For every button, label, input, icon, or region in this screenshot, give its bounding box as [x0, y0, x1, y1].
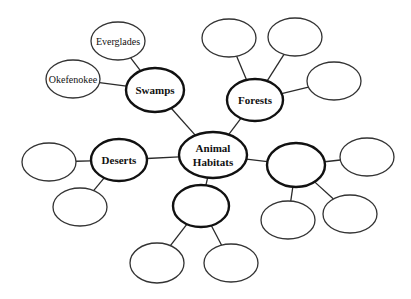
detail-node-blank-bottom-0 [130, 243, 184, 283]
edge-forests-child-0 [237, 56, 247, 80]
detail-node-forests-0-ellipse [202, 19, 256, 57]
detail-node-blank-bottom-1 [204, 244, 258, 282]
edge-blank-bottom-child-1 [211, 226, 221, 246]
category-node-blank-bottom-ellipse [173, 185, 229, 227]
edge-swamps-child-1 [100, 83, 127, 87]
category-label: Forests [238, 94, 273, 106]
detail-node-forests-0 [202, 19, 256, 57]
category-label: Swamps [135, 84, 175, 96]
category-node-blank-right-ellipse [267, 143, 325, 187]
detail-node-blank-bottom-1-ellipse [204, 244, 258, 282]
detail-node-swamps-1: Okefenokee [46, 60, 100, 98]
detail-node-forests-1-ellipse [268, 18, 322, 56]
edge-swamps-child-0 [131, 58, 141, 71]
edge-center-forests [229, 118, 241, 134]
edge-center-deserts [147, 157, 179, 159]
center-label-line: Habitats [193, 156, 234, 168]
edge-forests-child-2 [282, 87, 309, 93]
detail-node-blank-right-1-ellipse [261, 201, 315, 239]
center-label-line: Animal [196, 142, 231, 154]
detail-label: Everglades [96, 36, 140, 47]
edge-blank-right-child-1 [291, 187, 293, 201]
category-node-forests: Forests [227, 79, 283, 121]
diagram-canvas: AnimalHabitatsSwampsEvergladesOkefenokee… [0, 0, 411, 299]
detail-node-deserts-1 [53, 188, 107, 226]
center-node-ellipse [179, 132, 247, 178]
animal-habitats-web-diagram: AnimalHabitatsSwampsEvergladesOkefenokee… [0, 0, 411, 299]
category-label: Deserts [102, 154, 138, 166]
category-node-blank-bottom [173, 185, 229, 227]
detail-node-forests-1 [268, 18, 322, 56]
category-node-swamps: Swamps [126, 68, 184, 112]
nodes-layer: AnimalHabitatsSwampsEvergladesOkefenokee… [22, 18, 394, 283]
detail-node-blank-right-2-ellipse [323, 195, 377, 233]
detail-label: Okefenokee [49, 74, 98, 85]
edge-forests-child-1 [267, 54, 284, 81]
detail-node-blank-right-2 [323, 195, 377, 233]
category-node-blank-right [267, 143, 325, 187]
edge-center-blank-right [246, 159, 267, 162]
center-node: AnimalHabitats [179, 132, 247, 178]
category-node-deserts: Deserts [91, 139, 147, 181]
detail-node-blank-right-1 [261, 201, 315, 239]
edge-deserts-child-1 [94, 178, 105, 191]
detail-node-swamps-0: Everglades [91, 22, 145, 60]
detail-node-forests-2 [307, 62, 361, 100]
detail-node-deserts-0-ellipse [22, 143, 76, 181]
edge-blank-right-child-0 [325, 160, 341, 162]
detail-node-forests-2-ellipse [307, 62, 361, 100]
detail-node-deserts-1-ellipse [53, 188, 107, 226]
edge-blank-bottom-child-0 [170, 224, 187, 245]
detail-node-blank-right-0 [340, 138, 394, 176]
edge-center-swamps [171, 108, 195, 135]
detail-node-deserts-0 [22, 143, 76, 181]
detail-node-blank-right-0-ellipse [340, 138, 394, 176]
detail-node-blank-bottom-0-ellipse [130, 243, 184, 283]
edge-blank-right-child-2 [315, 182, 334, 199]
